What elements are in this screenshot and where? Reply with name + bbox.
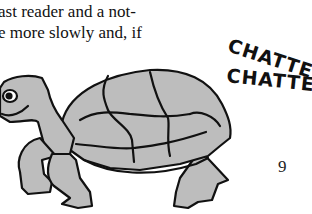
- text-line-1: ast reader and a not-: [0, 3, 136, 20]
- page-number: 9: [278, 157, 287, 177]
- turtle-illustration: [0, 60, 260, 214]
- text-line-2: e more slowly and, if: [0, 24, 142, 41]
